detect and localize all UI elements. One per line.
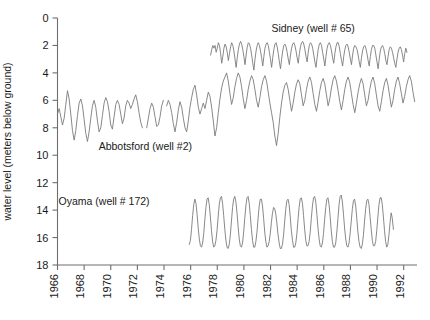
x-tick-label: 1982 <box>261 274 273 298</box>
x-tick-label: 1984 <box>287 274 299 298</box>
series-line <box>211 41 407 70</box>
y-tick-label: 10 <box>36 149 48 161</box>
x-tick-label: 1974 <box>154 274 166 298</box>
y-tick-label: 8 <box>42 122 48 134</box>
y-tick-label: 0 <box>42 12 48 24</box>
x-axis: 1966196819701972197419761978198019821984… <box>48 265 418 298</box>
series-line <box>147 100 164 127</box>
x-tick-label: 1968 <box>74 274 86 298</box>
x-tick-label: 1980 <box>234 274 246 298</box>
chart-plot-area: 024681012141618 196619681970197219741976… <box>0 0 430 320</box>
series-line <box>58 91 143 142</box>
series-line <box>189 195 393 249</box>
x-tick-label: 1972 <box>127 274 139 298</box>
series-line <box>167 73 415 146</box>
x-tick-label: 1976 <box>181 274 193 298</box>
y-tick-label: 4 <box>42 67 48 79</box>
x-tick-label: 1970 <box>101 274 113 298</box>
y-axis-title-text: water level (meters below ground) <box>1 62 13 221</box>
x-tick-label: 1992 <box>394 274 406 298</box>
x-tick-label: 1990 <box>367 274 379 298</box>
sidney-label: Sidney (well # 65) <box>271 22 354 34</box>
x-tick-label: 1988 <box>340 274 352 298</box>
oyama-label: Oyama (well # 172) <box>59 195 150 207</box>
abbotsford-label: Abbotsford (well #2) <box>99 140 192 152</box>
x-tick-label: 1986 <box>314 274 326 298</box>
y-axis-title: water level (meters below ground) <box>1 62 13 221</box>
x-tick-label: 1978 <box>207 274 219 298</box>
y-axis: 024681012141618 <box>36 12 57 271</box>
x-tick-label: 1966 <box>48 274 60 298</box>
y-tick-label: 14 <box>36 204 48 216</box>
y-tick-label: 16 <box>36 232 48 244</box>
y-tick-label: 18 <box>36 259 48 271</box>
water-level-chart-figure: 024681012141618 196619681970197219741976… <box>0 0 430 320</box>
y-tick-label: 2 <box>42 39 48 51</box>
y-tick-label: 6 <box>42 94 48 106</box>
y-tick-label: 12 <box>36 177 48 189</box>
